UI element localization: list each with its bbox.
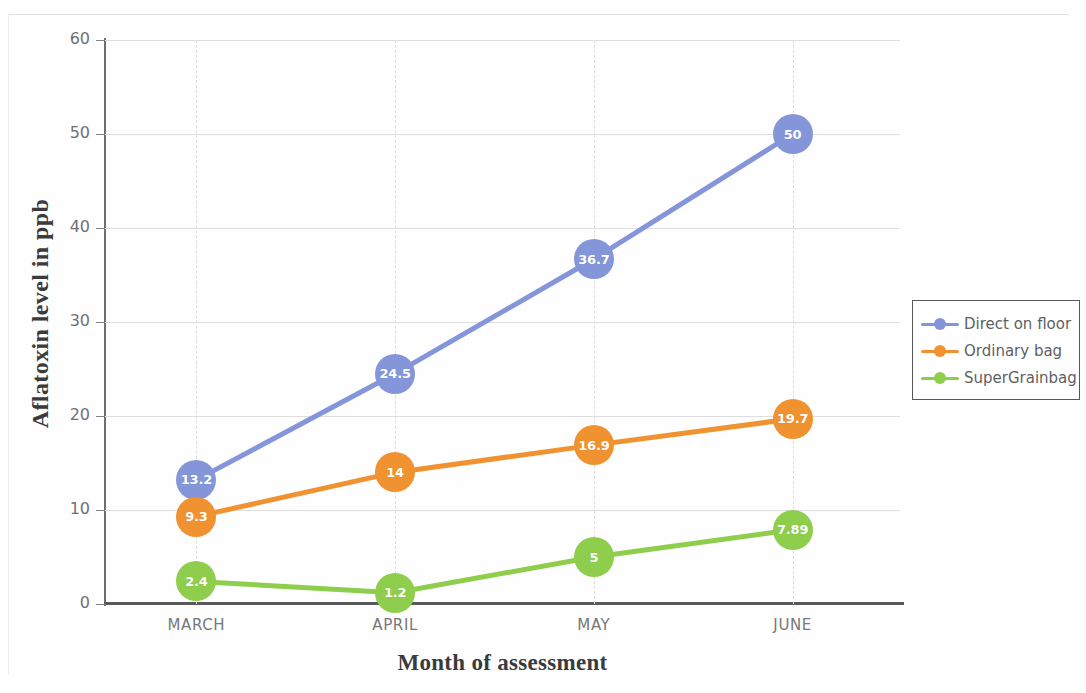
legend-item[interactable]: Direct on floor <box>913 310 1079 337</box>
x-axis-tick-label: APRIL <box>315 616 475 634</box>
data-point-marker[interactable]: 5 <box>574 537 614 577</box>
chart-legend: Direct on floor Ordinary bag SuperGrainb… <box>912 300 1080 400</box>
data-point-marker[interactable]: 16.9 <box>574 425 614 465</box>
data-point-marker[interactable]: 36.7 <box>574 239 614 279</box>
x-axis-tick-label: MAY <box>514 616 674 634</box>
line-chart: Aflatoxin level in ppb 0102030405060 13.… <box>0 0 1086 693</box>
y-axis-tick-mark <box>96 604 106 605</box>
y-axis-tick-label: 40 <box>46 217 90 236</box>
legend-marker-icon <box>921 344 959 358</box>
legend-item[interactable]: SuperGrainbag <box>913 364 1079 391</box>
y-axis-tick-label: 20 <box>46 405 90 424</box>
y-axis-tick-label: 60 <box>46 29 90 48</box>
data-point-marker[interactable]: 19.7 <box>773 399 813 439</box>
legend-item[interactable]: Ordinary bag <box>913 337 1079 364</box>
y-axis-tick-label: 50 <box>46 123 90 142</box>
y-axis-tick-label: 10 <box>46 499 90 518</box>
data-point-marker[interactable]: 1.2 <box>375 573 415 613</box>
y-axis-tick-label: 0 <box>46 593 90 612</box>
x-axis-tick-label: JUNE <box>713 616 873 634</box>
legend-item-label: Direct on floor <box>964 315 1071 333</box>
legend-item-label: Ordinary bag <box>964 342 1062 360</box>
legend-marker-icon <box>921 371 959 385</box>
series-line <box>196 530 792 593</box>
legend-item-label: SuperGrainbag <box>964 369 1077 387</box>
x-axis-tick-label: MARCH <box>116 616 276 634</box>
data-point-marker[interactable]: 7.89 <box>773 510 813 550</box>
data-point-marker[interactable]: 9.3 <box>176 497 216 537</box>
legend-marker-icon <box>921 317 959 331</box>
y-axis-tick-label: 30 <box>46 311 90 330</box>
x-axis-title: Month of assessment <box>105 650 900 676</box>
plot-area: 13.224.536.7509.31416.919.72.41.257.89 <box>105 40 900 604</box>
data-point-marker[interactable]: 50 <box>773 114 813 154</box>
series-line <box>196 134 792 480</box>
data-point-marker[interactable]: 24.5 <box>375 354 415 394</box>
